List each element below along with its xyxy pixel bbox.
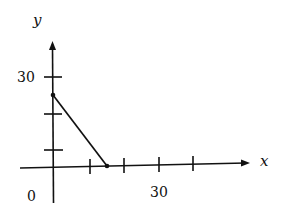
coordinate-graph xyxy=(0,0,286,214)
y-axis-label: y xyxy=(33,13,41,28)
y-tick-label-30: 30 xyxy=(17,70,35,84)
x-axis-arrow-icon xyxy=(241,160,250,167)
segment-endpoint-y-intercept xyxy=(51,93,56,98)
y-axis-arrow-icon xyxy=(49,41,56,50)
segment-endpoint-x-intercept xyxy=(105,164,110,169)
origin-label: 0 xyxy=(27,189,36,203)
x-axis-label: x xyxy=(260,154,268,169)
x-axis xyxy=(20,160,250,169)
line-segment xyxy=(51,93,110,169)
y-axis xyxy=(49,41,56,203)
x-tick-label-30: 30 xyxy=(150,185,168,199)
